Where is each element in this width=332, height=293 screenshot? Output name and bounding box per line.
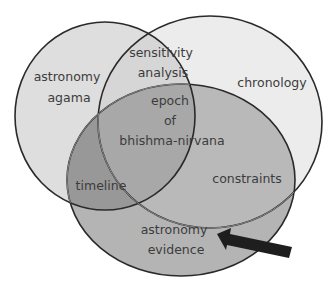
label-left-bottom-line1: timeline (76, 178, 127, 193)
venn-diagram: astronomy agama chronology sensitivity a… (0, 0, 332, 293)
label-center-line3: bhishma-nirvana (119, 133, 224, 148)
label-left-line2: agama (47, 90, 90, 105)
label-left-right-line2: analysis (138, 65, 189, 80)
label-right-bottom-line1: constraints (212, 171, 281, 186)
label-left-bottom: timeline (76, 178, 127, 193)
label-right-bottom: constraints (212, 171, 281, 186)
label-right-line1: chronology (237, 75, 307, 90)
label-right: chronology (237, 75, 307, 90)
label-bottom-line2: evidence (148, 242, 205, 257)
label-center-line1: epoch (151, 93, 189, 108)
label-center-line2: of (164, 113, 177, 128)
label-left-line1: astronomy (34, 69, 101, 84)
label-left-right-line1: sensitivity (129, 45, 193, 60)
label-bottom-line1: astronomy (141, 222, 208, 237)
